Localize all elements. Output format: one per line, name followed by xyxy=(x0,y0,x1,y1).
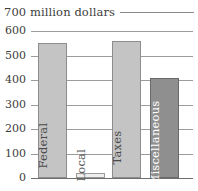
ytick-label-300: 300 xyxy=(0,99,26,110)
ytick-label-0: 0 xyxy=(0,172,26,183)
plot-area: 600 500 400 300 200 100 0 Federal Local … xyxy=(0,0,198,191)
bar-label-miscellaneous: Miscellaneous xyxy=(150,101,162,187)
ytick-label-400: 400 xyxy=(0,74,26,85)
ytick-label-200: 200 xyxy=(0,123,26,134)
gridline-0-baseline xyxy=(31,178,193,179)
ytick-label-600: 600 xyxy=(0,25,26,36)
bar-label-local: Local xyxy=(76,149,88,182)
ytick-label-100: 100 xyxy=(0,148,26,159)
ytick-label-500: 500 xyxy=(0,50,26,61)
bar-label-taxes: Taxes xyxy=(112,131,124,165)
bar-label-federal: Federal xyxy=(38,123,50,169)
gridline-600 xyxy=(31,31,193,32)
bar-chart: 700 million dollars 600 500 400 300 200 … xyxy=(0,0,198,191)
